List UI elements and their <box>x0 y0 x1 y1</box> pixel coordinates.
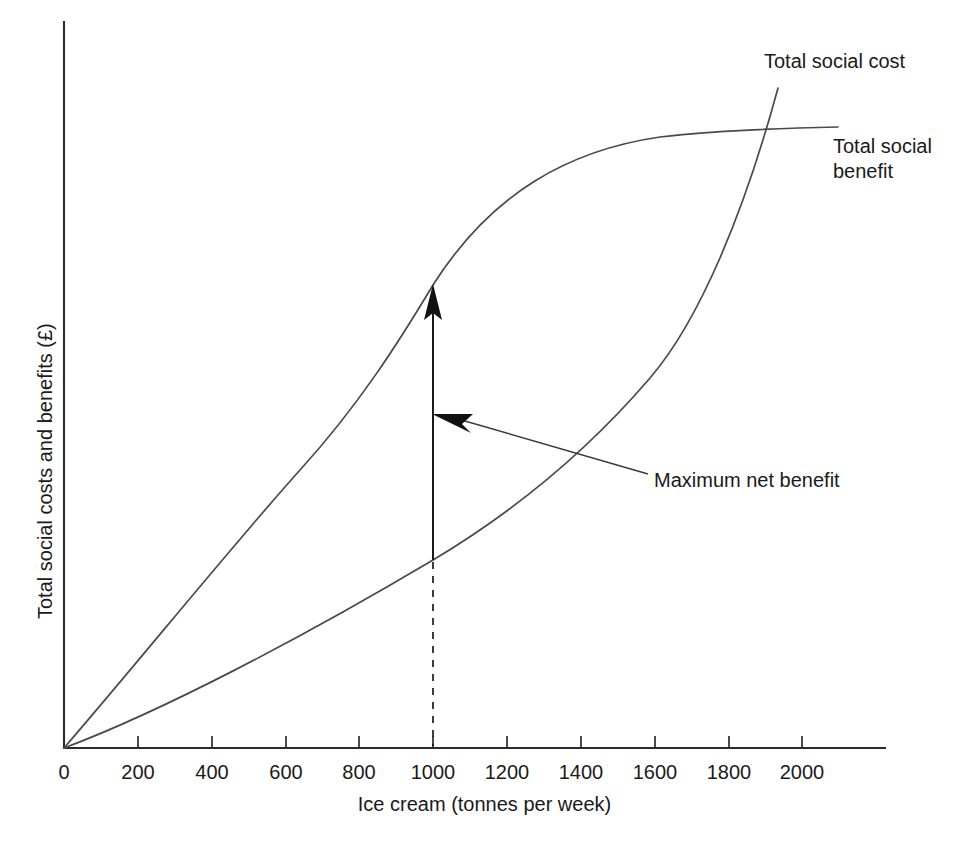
x-tick-label-1800: 1800 <box>707 761 752 784</box>
chart-canvas <box>0 0 969 845</box>
x-tick-label-1400: 1400 <box>559 761 604 784</box>
net-benefit-measure-arrow <box>424 284 442 560</box>
axis-group <box>64 22 885 748</box>
x-tick-label-1200: 1200 <box>485 761 530 784</box>
maximum-net-benefit-leader <box>458 419 648 474</box>
x-tick-label-1000: 1000 <box>411 761 456 784</box>
x-tick-label-2000: 2000 <box>780 761 825 784</box>
chart-figure: 0 200 400 600 800 1000 1200 1400 1600 18… <box>0 0 969 845</box>
x-tick-label-1600: 1600 <box>633 761 678 784</box>
total-social-benefit-curve <box>64 127 838 748</box>
x-axis-title: Ice cream (tonnes per week) <box>358 793 611 816</box>
x-tick-label-800: 800 <box>342 761 375 784</box>
x-tick-label-200: 200 <box>121 761 154 784</box>
total-social-cost-label: Total social cost <box>764 49 905 74</box>
maximum-net-benefit-callout <box>432 414 648 474</box>
y-axis-title: Total social costs and benefits (£) <box>34 323 57 619</box>
x-tick-label-400: 400 <box>195 761 228 784</box>
total-social-benefit-label: Total social benefit <box>833 134 932 184</box>
x-axis-ticks <box>64 736 802 748</box>
maximum-net-benefit-label: Maximum net benefit <box>654 468 840 493</box>
x-tick-label-0: 0 <box>58 761 69 784</box>
x-tick-label-600: 600 <box>269 761 302 784</box>
maximum-net-benefit-arrow-head <box>432 414 473 433</box>
total-social-cost-curve <box>64 88 778 748</box>
